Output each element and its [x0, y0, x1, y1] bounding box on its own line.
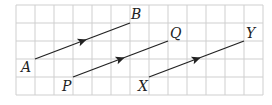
- label-y: Y: [246, 25, 257, 41]
- label-x: X: [137, 78, 149, 94]
- label-p: P: [61, 78, 72, 94]
- vector-lines: [35, 23, 244, 77]
- diagram-canvas: A B P Q X Y: [0, 0, 272, 105]
- vector-diagram: A B P Q X Y: [0, 0, 272, 105]
- label-b: B: [130, 6, 141, 22]
- label-a: A: [19, 59, 31, 75]
- label-q: Q: [170, 25, 182, 41]
